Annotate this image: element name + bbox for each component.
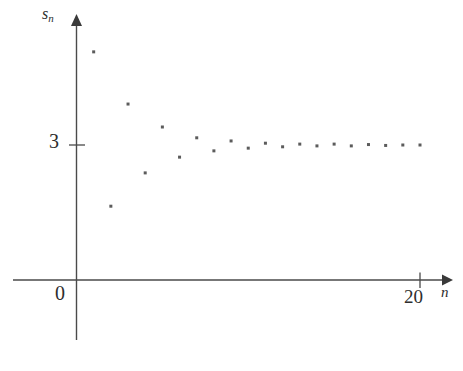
- data-point: [230, 139, 233, 142]
- data-point: [333, 143, 336, 146]
- data-point: [212, 149, 215, 152]
- plot-canvas: [0, 0, 463, 371]
- data-point: [315, 144, 318, 147]
- data-point: [281, 145, 284, 148]
- y-axis-label: sn: [42, 6, 54, 24]
- data-point: [367, 143, 370, 146]
- y-axis-label-subscript: n: [48, 12, 54, 24]
- data-points-group: [92, 50, 421, 207]
- y-tick-label-3: 3: [49, 131, 59, 151]
- data-point: [247, 147, 250, 150]
- x-tick-label-20: 20: [404, 287, 423, 306]
- data-point: [401, 144, 404, 147]
- data-point: [419, 144, 422, 147]
- origin-label: 0: [55, 283, 65, 303]
- data-point: [178, 156, 181, 159]
- data-point: [195, 136, 198, 139]
- data-point: [161, 126, 164, 129]
- data-point: [350, 144, 353, 147]
- scatter-plot-figure: sn 3 0 20 n: [0, 0, 463, 371]
- data-point: [127, 103, 130, 106]
- data-point: [144, 171, 147, 174]
- x-axis-label: n: [441, 285, 449, 300]
- data-point: [92, 50, 95, 53]
- data-point: [109, 205, 112, 208]
- y-axis-arrowhead: [71, 14, 82, 26]
- data-point: [384, 144, 387, 147]
- data-point: [264, 142, 267, 145]
- data-point: [298, 143, 301, 146]
